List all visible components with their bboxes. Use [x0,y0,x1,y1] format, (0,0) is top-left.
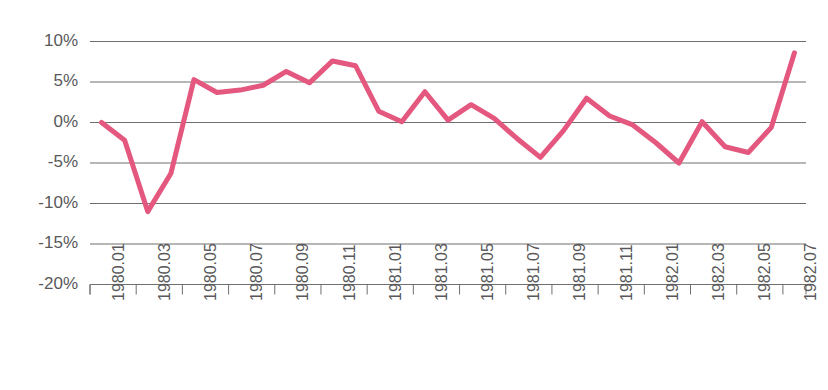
chart-canvas [0,0,828,390]
line-chart: 10%5%0%-5%-10%-15%-20% 1980.011980.03198… [0,0,828,390]
x-axis-tick-label: 1981.05 [479,243,497,301]
x-axis-tick-label: 1980.01 [110,243,128,301]
x-axis-tick-label: 1981.07 [525,243,543,301]
y-axis-tick-label: 5% [53,71,78,91]
x-axis-tick-label: 1980.09 [294,243,312,301]
y-axis-tick-label: -15% [38,233,78,253]
y-axis-tick-label: -5% [48,152,78,172]
series-line [102,53,795,212]
y-axis-tick-label: 0% [53,112,78,132]
x-axis-tick-label: 1981.11 [618,244,636,301]
x-axis-tick-label: 1980.05 [202,243,220,301]
x-axis-tick-label: 1982.05 [756,243,774,301]
x-axis-tick-label: 1981.03 [433,243,451,301]
x-axis-tick-label: 1981.01 [387,243,405,301]
x-axis-tick-label: 1982.03 [710,243,728,301]
x-axis-tick-label: 1982.01 [664,243,682,301]
y-axis-tick-label: -10% [38,193,78,213]
x-axis-tick-label: 1981.09 [571,243,589,301]
x-axis-tick-label: 1980.11 [341,244,359,301]
x-axis-tick-label: 1982.07 [802,243,820,301]
y-axis-tick-label: 10% [44,31,78,51]
y-axis-tick-label: -20% [38,274,78,294]
x-axis-tick-label: 1980.03 [156,243,174,301]
x-axis-tick-label: 1980.07 [248,243,266,301]
